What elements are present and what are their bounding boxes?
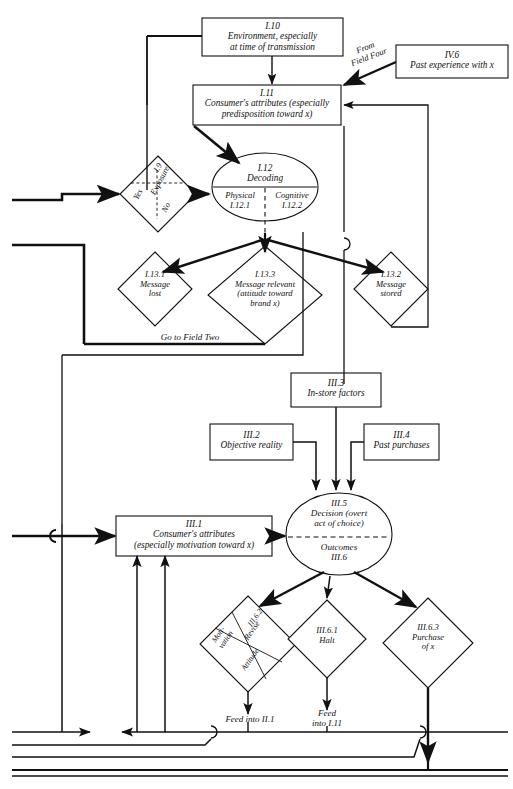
diamond-i132 [354, 252, 428, 326]
ellipse-iii5 [286, 493, 392, 575]
edge-iii5-to-iii62 [260, 572, 324, 606]
box-i11 [193, 85, 341, 125]
annotation-feed-into-i11: Feed into I.11 [294, 708, 360, 728]
box-iii1 [116, 516, 272, 556]
line-left-up-to-i9 [12, 245, 84, 344]
box-i10 [202, 18, 343, 56]
diamond-i133 [208, 246, 322, 344]
diamond-iii61 [288, 600, 366, 678]
annotation-feed-into-i11-line2: into I.11 [294, 718, 360, 728]
edge-iii4-to-iii5 [351, 442, 364, 490]
diamond-iii63 [383, 598, 473, 688]
annotation-go-to-field-two: Go to Field Two [130, 332, 250, 342]
annotation-feed-into-i11-line1: Feed [294, 708, 360, 718]
edge-i11-to-i12 [194, 126, 239, 163]
edge-iii5-to-iii63 [354, 572, 416, 607]
bus-line-b [12, 739, 211, 745]
flowchart-canvas [0, 0, 513, 789]
line-hop-right-upper [344, 238, 350, 250]
box-iii4 [364, 424, 439, 460]
edge-left-feed-into-i9 [12, 194, 119, 200]
edge-iii5-to-iii61 [327, 576, 330, 598]
box-iv6 [396, 45, 508, 78]
diamond-i131 [118, 252, 192, 326]
box-iii3 [291, 373, 381, 407]
annotation-feed-into-ii1: Feed into II.1 [198, 714, 302, 724]
box-iii2 [210, 424, 293, 460]
bus-line-c [12, 739, 420, 757]
edge-iii2-to-iii5 [293, 442, 316, 490]
